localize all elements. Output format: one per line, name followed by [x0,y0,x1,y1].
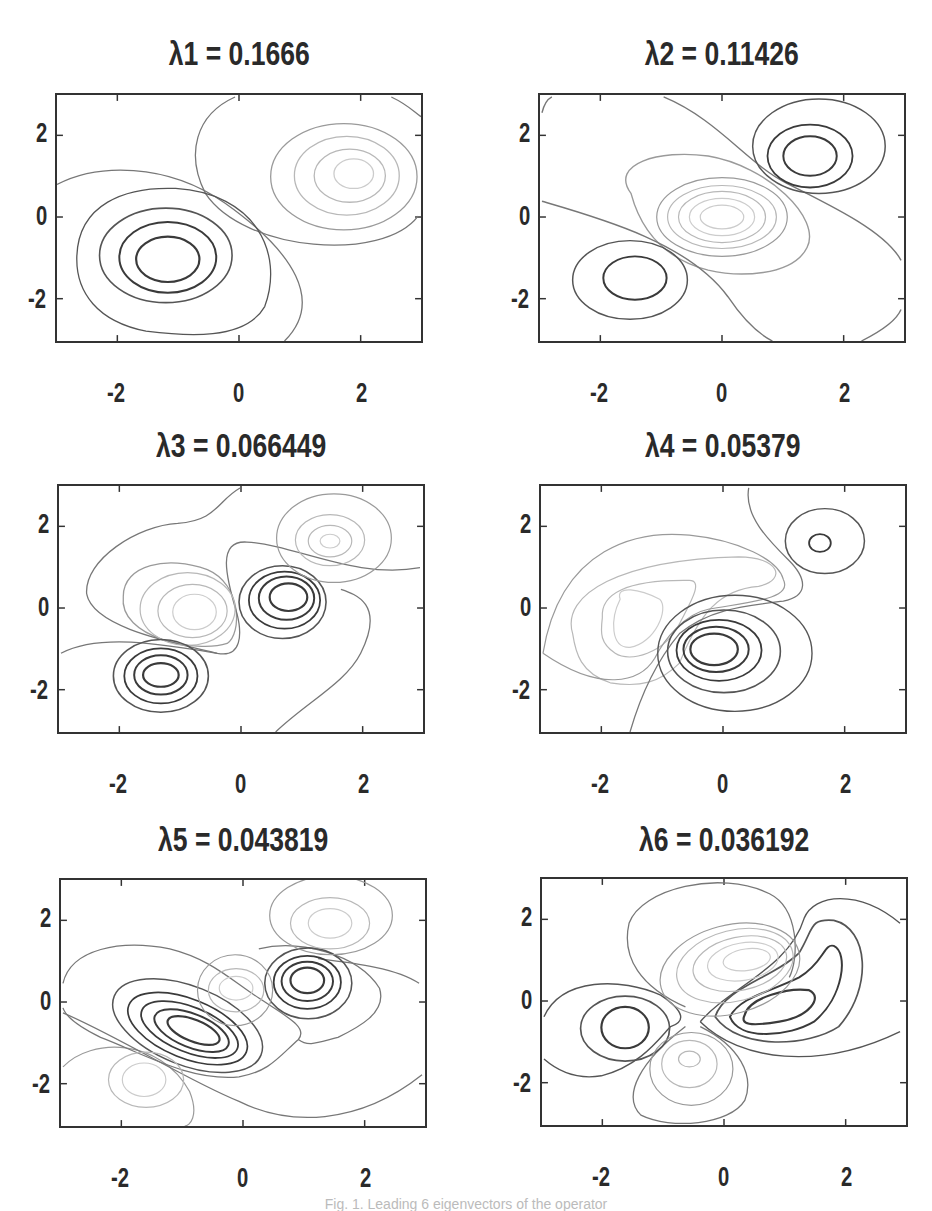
contour-lines [61,880,425,1126]
contour-plot-area [540,877,908,1127]
contour-ring [689,198,754,235]
contour-line [601,580,695,657]
contour-plot-area [539,484,907,734]
contour-line [63,1047,194,1126]
subplot-title: λ3 = 0.066449 [7,426,475,465]
y-tick-label: -2 [493,677,533,704]
contour-ring [658,595,812,711]
subplot-title: λ4 = 0.05379 [489,426,932,465]
figure-caption: Fig. 1. Leading 6 eigenvectors of the op… [0,1196,932,1211]
contour-line [664,97,901,260]
contour-line [700,1022,900,1057]
y-tick-label: 0 [494,987,534,1014]
contour-ring [573,241,688,320]
contour-ring [294,136,399,215]
contour-ring [173,594,217,629]
contour-lines [57,95,421,341]
y-tick-label: 0 [13,988,53,1015]
contour-ring [290,968,324,994]
subplot-title-text: λ3 = 0.066449 [156,426,326,465]
contour-plot-area [57,484,425,734]
contour-line [614,590,663,648]
subplot-title-text: λ2 = 0.11426 [645,34,799,73]
x-tick-label: 0 [218,1165,268,1192]
contour-ring [690,634,737,665]
contour-lines [541,486,905,732]
y-tick-label: 0 [492,203,532,230]
contour-ring [270,880,393,955]
contour-ring [704,937,781,986]
contour-ring [320,534,340,548]
contour-ring [581,996,670,1061]
x-tick-label: 2 [341,1165,391,1192]
y-tick-label: -2 [13,1071,53,1098]
contour-ring [136,237,199,282]
contour-lines [59,486,423,732]
contour-ring [657,178,788,257]
y-tick-label: -2 [9,286,49,313]
subplot-lambda4: λ4 = 0.05379 20-2-202 [466,392,932,787]
contour-line [57,170,302,341]
subplot-lambda1: λ1 = 0.1666 20-2-202 [0,0,466,395]
subplot-title-text: λ1 = 0.1666 [169,34,310,73]
contour-ring [140,573,235,646]
contour-plot-area [59,878,427,1128]
contour-plot-area [538,93,906,343]
subplot-lambda2: λ2 = 0.11426 20-2-202 [466,0,932,395]
contour-ring [700,205,744,229]
subplot-title: λ6 = 0.036192 [490,820,932,859]
y-tick-label: -2 [11,677,51,704]
contour-ring [783,136,836,175]
contour-line [87,542,420,654]
contour-line [87,488,240,594]
contour-ring [295,515,364,566]
contour-ring [271,124,417,230]
contour-ring [308,525,352,556]
contour-ring [662,1040,717,1087]
y-tick-label: 2 [13,905,53,932]
contour-plot-area [55,93,423,343]
contour-ring [118,978,258,1080]
subplot-title: λ1 = 0.1666 [5,34,473,73]
contour-line [542,97,552,113]
contour-ring [768,125,853,188]
subplot-title: λ2 = 0.11426 [488,34,932,73]
y-tick-label: 0 [9,203,49,230]
contour-line [744,990,815,1025]
subplot-title: λ5 = 0.043819 [9,820,477,859]
contour-ring [601,1007,648,1048]
contour-lines [542,879,906,1125]
contour-line [77,188,271,334]
y-tick-label: 2 [11,511,51,538]
contour-ring [219,976,253,1000]
contour-ring [308,909,352,939]
contour-line [861,310,901,341]
x-tick-label: -2 [95,1165,145,1192]
contour-ring [314,149,385,202]
contour-ring [143,663,179,687]
subplot-title-text: λ4 = 0.05379 [645,426,801,465]
contour-ring [208,969,263,1012]
subplot-lambda6: λ6 = 0.036192 20-2-202 [466,786,932,1181]
subplot-title-text: λ5 = 0.043819 [158,820,328,859]
contour-ring [785,509,864,574]
contour-ring [753,99,886,193]
contour-ring [334,159,374,189]
contour-ring [277,494,392,583]
contour-line [391,97,421,117]
contour-ring [603,256,666,299]
contour-lines [540,95,904,341]
y-tick-label: 2 [492,120,532,147]
contour-ring [679,1051,701,1067]
contour-ring [809,534,831,552]
contour-ring [270,583,308,611]
contour-ring [668,186,777,249]
y-tick-label: 2 [9,120,49,147]
y-tick-label: 2 [494,904,534,931]
y-tick-label: 0 [493,594,533,621]
x-tick-label: 2 [822,1164,872,1191]
contour-ring [108,1052,183,1107]
contour-ring [122,1063,166,1096]
y-tick-label: 0 [11,594,51,621]
subplot-lambda3: λ3 = 0.066449 20-2-202 [0,392,466,787]
